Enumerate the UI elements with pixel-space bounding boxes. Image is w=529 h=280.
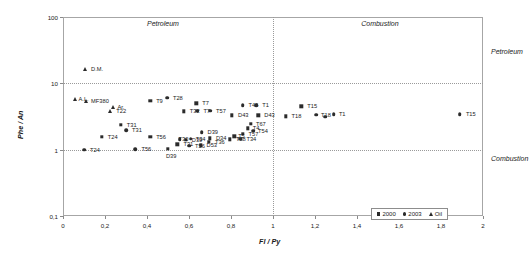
data-point-label: T67 — [256, 121, 266, 127]
data-point-square — [148, 135, 151, 138]
data-point-label: D43 — [264, 112, 274, 118]
data-point-label: T28 — [173, 95, 183, 101]
data-point-label: T1 — [339, 111, 346, 117]
scatter-chart: 00,20,40,60,811,21,41,61,820,1110100 T9T… — [0, 0, 529, 280]
zone-label-petroleum: Petroleum — [491, 48, 523, 55]
zone-label-combustion: Combustion — [491, 155, 528, 162]
chart-legend: 2000 2003 Oil — [371, 208, 448, 220]
x-tick-label: 1,4 — [353, 222, 362, 229]
data-point-label: T31 — [132, 127, 142, 133]
data-point-square — [182, 110, 185, 113]
data-point-square — [232, 134, 235, 137]
x-tick-mark — [315, 216, 316, 219]
data-point-label: T7 — [202, 100, 209, 106]
data-point-circle — [241, 103, 245, 107]
data-point-label: T36 — [215, 139, 225, 145]
data-point-square — [284, 114, 287, 117]
data-point-triangle — [108, 109, 112, 113]
y-tick-label: 1 — [37, 146, 58, 153]
data-point-label: D39 — [166, 153, 176, 159]
x-tick-mark — [147, 216, 148, 219]
data-point-label: T24 — [108, 134, 118, 140]
x-axis-title: Fl / Py — [259, 237, 280, 246]
data-point-label: T34 — [196, 136, 206, 142]
y-axis-title: Phe / An — [16, 110, 25, 139]
y-tick-mark — [60, 17, 63, 18]
y-tick-mark — [60, 150, 63, 151]
zone-label-combustion: Combustion — [361, 20, 398, 27]
data-point-label: D39 — [208, 129, 218, 135]
x-tick-label: 0 — [61, 222, 64, 229]
data-point-circle — [254, 103, 258, 107]
y-tick-label: 10 — [37, 80, 58, 87]
x-tick-label: 1,8 — [437, 222, 446, 229]
data-point-circle — [189, 137, 193, 141]
data-point-square — [176, 143, 179, 146]
x-tick-mark — [105, 216, 106, 219]
data-point-circle — [314, 113, 318, 117]
x-tick-mark — [273, 216, 274, 219]
data-point-square — [100, 135, 103, 138]
data-point-label: T5 — [238, 133, 245, 139]
x-tick-label: 0,2 — [101, 222, 110, 229]
x-tick-label: 1,2 — [311, 222, 320, 229]
x-tick-mark — [357, 216, 358, 219]
legend-item-2000: 2000 — [377, 211, 396, 217]
data-point-label: T56 — [195, 143, 205, 149]
data-point-square — [228, 138, 231, 141]
data-point-square — [195, 102, 198, 105]
y-tick-mark — [60, 83, 63, 84]
x-tick-label: 2 — [481, 222, 484, 229]
data-point-label: T18 — [292, 113, 302, 119]
data-point-label: T56 — [156, 134, 166, 140]
data-point-circle — [187, 144, 191, 148]
data-point-square — [148, 99, 151, 102]
x-tick-mark — [231, 216, 232, 219]
data-point-label: T15 — [466, 111, 476, 117]
data-point-label: D43 — [238, 112, 248, 118]
data-point-circle — [323, 115, 327, 119]
data-point-label: T24 — [90, 147, 100, 153]
data-point-label: T54 — [258, 128, 268, 134]
zone-label-petroleum: Petroleum — [147, 20, 179, 27]
data-point-square — [166, 147, 169, 150]
data-point-label: T1 — [262, 102, 269, 108]
data-point-label: T9 — [156, 98, 163, 104]
circle-marker-icon — [403, 212, 407, 216]
data-point-circle — [332, 112, 336, 116]
data-point-circle — [200, 130, 204, 134]
data-point-circle — [82, 148, 86, 152]
legend-label: Oil — [435, 211, 442, 217]
data-point-circle — [196, 109, 200, 113]
data-point-label: T22 — [116, 108, 126, 114]
x-tick-label: 0,6 — [185, 222, 194, 229]
y-tick-mark — [60, 216, 63, 217]
x-tick-label: 1 — [271, 222, 274, 229]
data-point-square — [300, 105, 303, 108]
data-point-label: T15 — [307, 103, 317, 109]
x-tick-label: 1,6 — [395, 222, 404, 229]
legend-label: 2000 — [382, 211, 395, 217]
data-point-triangle — [83, 67, 87, 71]
triangle-marker-icon — [429, 212, 433, 216]
y-tick-label: 0,1 — [37, 213, 58, 220]
data-point-square — [249, 122, 252, 125]
data-point-circle — [124, 129, 128, 133]
data-point-triangle — [73, 97, 77, 101]
legend-item-2003: 2003 — [403, 211, 422, 217]
y-tick-label: 100 — [37, 14, 58, 21]
data-point-square — [246, 127, 249, 130]
legend-label: 2003 — [408, 211, 421, 217]
data-point-circle — [134, 147, 138, 151]
x-tick-mark — [63, 216, 64, 219]
data-point-circle — [458, 112, 462, 116]
data-point-square — [207, 140, 210, 143]
data-point-label: D.M. — [91, 66, 103, 72]
data-point-label: T30 — [179, 136, 189, 142]
data-point-circle — [208, 109, 212, 113]
data-point-square — [230, 114, 233, 117]
data-point-label: T56 — [141, 146, 151, 152]
data-point-circle — [165, 96, 169, 100]
x-tick-label: 0,8 — [227, 222, 236, 229]
data-point-circle — [251, 129, 255, 133]
